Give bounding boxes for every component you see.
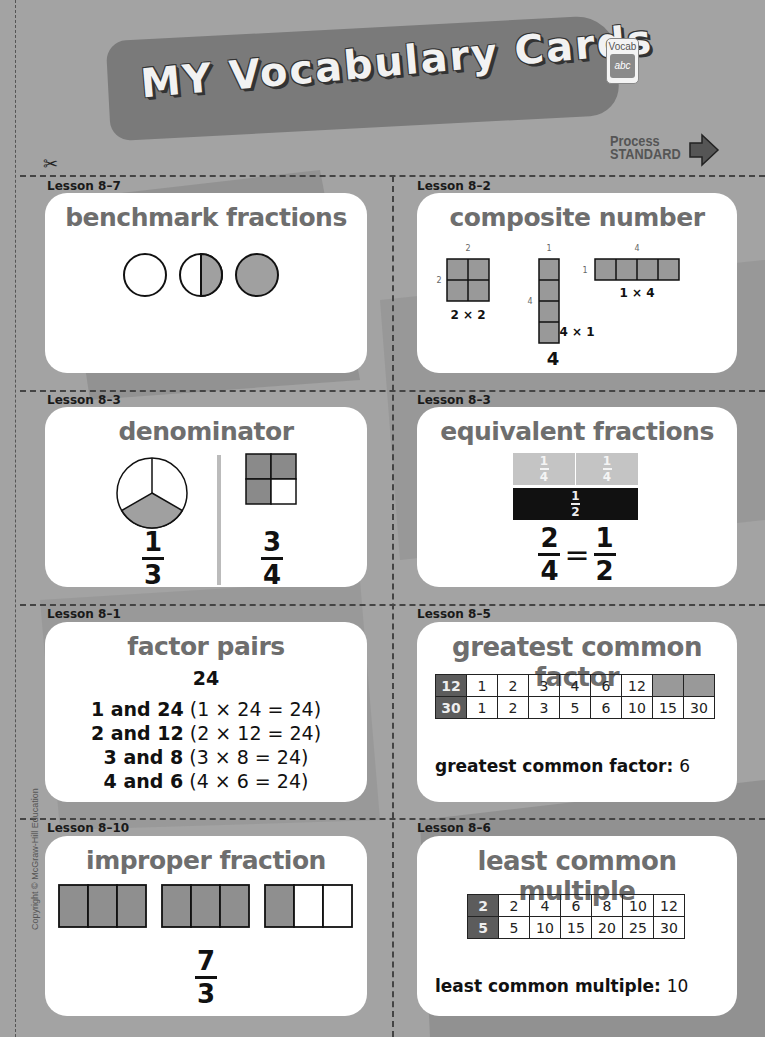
array-1x4-side: 1	[582, 266, 587, 275]
fraction-one-fourth: 1 4	[540, 455, 549, 483]
card-composite-number: composite number 2 2 2 × 2 1 4 4 × 1 4	[417, 193, 737, 373]
process-line2: STANDARD	[610, 147, 681, 160]
whole-bar	[265, 885, 352, 927]
card-factor-pairs: factor pairs 24 1 and 24 (1 × 24 = 24) 2…	[45, 622, 367, 802]
shaded-third	[191, 885, 220, 927]
factor-pair: 2 and 12	[91, 722, 184, 744]
numerator: 3	[263, 529, 281, 555]
card-least-common-multiple: least common multiple 224681012551015202…	[417, 836, 737, 1016]
lesson-label: Lesson 8–2	[417, 179, 491, 193]
fraction-one-fourth: 1 4	[603, 455, 612, 483]
numerator: 1	[603, 455, 611, 467]
row-header: 30	[436, 697, 467, 719]
factor-pair: 4 and 6	[104, 770, 184, 792]
table-cell: 6	[561, 895, 592, 917]
fraction-one-half: 1 2	[594, 525, 616, 584]
denominator: 4	[603, 471, 611, 483]
lesson-label: Lesson 8–5	[417, 607, 491, 621]
table-cell: 1	[467, 697, 498, 719]
card-equivalent-fractions: equivalent fractions 1 4 1 4 1 2 2 4 = 1	[417, 407, 737, 587]
left-perforation	[15, 0, 16, 1037]
cut-line-vertical	[392, 176, 394, 1037]
copyright-notice: Copyright © McGraw-Hill Education	[30, 788, 40, 930]
bar-quarter: 1 4	[513, 453, 575, 485]
array-1x4-top: 4	[634, 244, 639, 253]
array-2x2: 2 2 2 × 2	[436, 244, 489, 322]
fraction-one-half: 1 2	[571, 490, 580, 518]
array-4x1-side: 4	[527, 297, 532, 306]
factor-equation: (1 × 24 = 24)	[184, 698, 321, 720]
square-quarters	[245, 453, 299, 507]
table-cell	[684, 675, 715, 697]
denominator: 4	[540, 471, 548, 483]
card-title: benchmark fractions	[45, 203, 367, 232]
table-cell: 30	[684, 697, 715, 719]
card-title: denominator	[45, 417, 367, 446]
scissors-icon: ✂	[43, 153, 58, 175]
improper-fraction-bars	[57, 883, 367, 931]
factor-pair-line: 4 and 6 (4 × 6 = 24)	[45, 769, 367, 793]
composite-number-value: 4	[547, 348, 560, 369]
pie-thirds	[112, 453, 192, 533]
array-4x1-top: 1	[546, 244, 551, 253]
array-4x1: 1 4 4 × 1	[527, 244, 594, 343]
numerator: 1	[540, 455, 548, 467]
shaded-third	[265, 885, 294, 927]
table-cell: 12	[654, 895, 685, 917]
card-title: equivalent fractions	[417, 417, 737, 446]
row-header: 2	[468, 895, 499, 917]
bar-quarter: 1 4	[576, 453, 638, 485]
factor-pair: 1 and 24	[91, 698, 184, 720]
equals-sign: =	[564, 537, 589, 572]
divider	[217, 455, 221, 585]
fraction-seven-thirds: 7 3	[195, 948, 217, 1007]
array-2x2-top: 2	[465, 244, 470, 253]
table-cell: 15	[561, 917, 592, 939]
factor-pair-line: 2 and 12 (2 × 12 = 24)	[45, 721, 367, 745]
empty-third	[323, 885, 352, 927]
table-row: 224681012	[468, 895, 685, 917]
table-cell: 4	[560, 675, 591, 697]
numerator: 2	[540, 525, 558, 551]
table-cell: 25	[623, 917, 654, 939]
table-row: 551015202530	[468, 917, 685, 939]
lesson-label: Lesson 8–10	[47, 821, 129, 835]
numerator: 1	[571, 490, 579, 502]
array-1x4: 4 1 1 × 4	[582, 244, 679, 300]
empty-third	[294, 885, 323, 927]
factor-pair-line: 3 and 8 (3 × 8 = 24)	[45, 745, 367, 769]
factor-equation: (3 × 8 = 24)	[183, 746, 308, 768]
table-cell: 8	[592, 895, 623, 917]
card-greatest-common-factor: greatest common factor 12123461230123561…	[417, 622, 737, 802]
numerator: 1	[596, 525, 614, 551]
row-header: 5	[468, 917, 499, 939]
circle-half	[180, 254, 222, 296]
lesson-label: Lesson 8–1	[47, 607, 121, 621]
lesson-label: Lesson 8–3	[417, 393, 491, 407]
denominator: 4	[540, 558, 558, 584]
equation: 2 4 = 1 2	[417, 525, 737, 584]
table-cell: 6	[591, 675, 622, 697]
fraction-two-fourths: 2 4	[538, 525, 560, 584]
table-cell: 20	[592, 917, 623, 939]
denominator: 2	[571, 506, 579, 518]
fraction-three-fourths: 3 4	[261, 529, 283, 588]
table-row: 121234612	[436, 675, 715, 697]
lcm-table: 224681012551015202530	[467, 894, 685, 939]
composite-arrays: 2 2 2 × 2 1 4 4 × 1 4 1 1 × 4 4	[417, 241, 737, 371]
table-cell: 3	[529, 675, 560, 697]
benchmark-circles	[121, 250, 291, 300]
numerator: 7	[197, 948, 215, 974]
gcf-table: 1212346123012356101530	[435, 674, 715, 719]
array-1x4-label: 1 × 4	[619, 286, 654, 300]
table-cell: 3	[529, 697, 560, 719]
whole-bar	[59, 885, 146, 927]
denominator: 2	[596, 558, 614, 584]
shaded-third	[59, 885, 88, 927]
table-cell: 10	[530, 917, 561, 939]
result-value: 10	[667, 976, 689, 996]
denominator: 3	[197, 981, 215, 1007]
vocab-badge: Vocab abc	[606, 38, 639, 84]
factor-pair-list: 1 and 24 (1 × 24 = 24) 2 and 12 (2 × 12 …	[45, 697, 367, 793]
card-denominator: denominator 1 4 3 3 4	[45, 407, 367, 587]
